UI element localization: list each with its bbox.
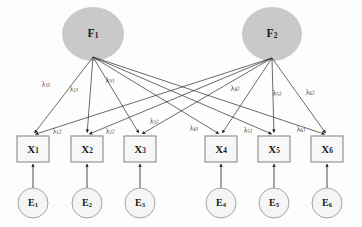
diagram-canvas: F1 F2 X1X2X3X4X5X6 E1E2E3E4E5E6 λ11λ21λ3…: [0, 0, 362, 227]
indicator-node-x4[interactable]: X4: [205, 136, 237, 162]
indicator-node-x3[interactable]: X3: [124, 136, 156, 162]
indicator-node-x6[interactable]: X6: [311, 136, 343, 162]
diagram-background: [0, 0, 362, 227]
factor-node-f1[interactable]: F1: [62, 7, 124, 61]
error-node-e3[interactable]: E3: [125, 188, 155, 218]
error-node-e1[interactable]: E1: [18, 188, 48, 218]
error-node-e6[interactable]: E6: [312, 188, 342, 218]
error-node-e4[interactable]: E4: [206, 188, 236, 218]
indicator-node-x5[interactable]: X5: [258, 136, 290, 162]
factor-node-f2[interactable]: F2: [242, 7, 302, 61]
error-node-e5[interactable]: E5: [259, 188, 289, 218]
indicator-node-x2[interactable]: X2: [71, 136, 103, 162]
sem-path-diagram: F1 F2 X1X2X3X4X5X6 E1E2E3E4E5E6 λ11λ21λ3…: [0, 0, 362, 227]
error-node-e2[interactable]: E2: [72, 188, 102, 218]
indicator-node-x1[interactable]: X1: [17, 136, 49, 162]
